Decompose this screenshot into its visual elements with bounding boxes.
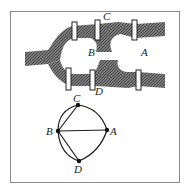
map-label-a: A: [140, 46, 148, 58]
map-label-b: B: [88, 46, 95, 58]
node-label-d: D: [73, 163, 82, 175]
edge-d-a: [79, 130, 107, 161]
node-label-a: A: [109, 125, 117, 137]
node-b: [56, 129, 60, 133]
river-map: C B A D: [25, 10, 165, 97]
node-label-b: B: [46, 125, 53, 137]
graph-nodes: [56, 103, 109, 163]
node-label-c: C: [73, 92, 81, 104]
node-a: [105, 128, 109, 132]
map-label-c: C: [103, 10, 111, 22]
edge-b-a: [58, 130, 107, 131]
map-label-d: D: [94, 85, 103, 97]
konigsberg-figure: C B A D C B A D: [0, 0, 192, 192]
edge-c-a: [78, 105, 107, 130]
graph: [58, 105, 107, 161]
